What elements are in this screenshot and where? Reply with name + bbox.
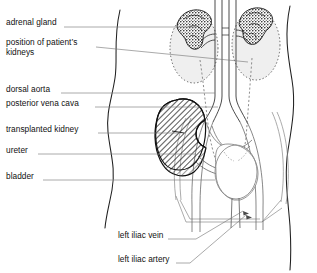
label-adrenal-gland: adrenal gland xyxy=(6,18,57,28)
leader-arrowheads xyxy=(243,211,252,220)
label-posterior-vena-cava: posterior vena cava xyxy=(6,99,79,109)
label-left-iliac-artery: left iliac artery xyxy=(118,255,170,265)
label-transplanted-kidney: transplanted kidney xyxy=(6,125,78,135)
leader-left-iliac-vein xyxy=(168,211,243,239)
label-bladder: bladder xyxy=(6,172,34,182)
label-left-iliac-vein: left iliac vein xyxy=(118,231,164,241)
kidney-transplant-diagram: adrenal gland position of patient’s kidn… xyxy=(0,0,317,273)
label-ureter: ureter xyxy=(6,146,28,156)
leader-position-of-kidneys xyxy=(96,47,248,62)
label-position-of-kidneys-line2: kidneys xyxy=(6,48,34,58)
label-dorsal-aorta: dorsal aorta xyxy=(6,85,50,95)
